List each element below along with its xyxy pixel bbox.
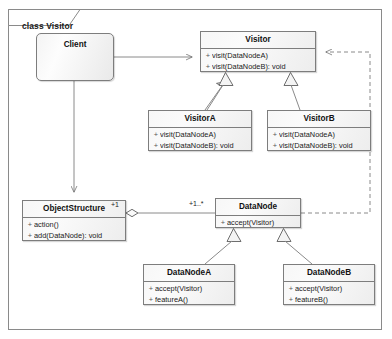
member-row: + visit(DataNodeB): void [204, 62, 313, 73]
class-box-visitora[interactable]: VisitorA + visit(DataNodeA) + visit(Data… [148, 110, 252, 151]
diagram-frame-tab-clip: class Visitor [8, 9, 80, 25]
class-box-visitor[interactable]: Visitor + visit(DataNodeA) + visit(DataN… [200, 31, 316, 72]
visibility-marker: + [152, 141, 160, 152]
member-row: + visit(DataNodeA) [271, 130, 368, 141]
member-row: + accept(Visitor) [287, 284, 372, 295]
visibility-marker: + [219, 218, 227, 229]
member-signature: accept(Visitor) [295, 284, 372, 295]
multiplicity-label-objectstructure: +1 [111, 201, 119, 209]
class-box-visitorb[interactable]: VisitorB + visit(DataNodeA) + visit(Data… [267, 110, 371, 151]
member-signature: accept(Visitor) [155, 284, 232, 295]
visibility-marker: + [204, 62, 212, 73]
class-name-visitora: VisitorA [149, 111, 251, 127]
member-row: + featureB() [287, 295, 372, 306]
visibility-marker: + [147, 284, 155, 295]
member-signature: visit(DataNodeA) [279, 130, 368, 141]
member-signature: visit(DataNodeB): void [279, 141, 368, 152]
member-signature: visit(DataNodeB): void [212, 62, 313, 73]
member-signature: visit(DataNodeA) [212, 51, 313, 62]
visibility-marker: + [152, 130, 160, 141]
class-name-datanode: DataNode [216, 199, 300, 215]
class-box-datanodea[interactable]: DataNodeA + accept(Visitor) + featureA() [143, 264, 235, 305]
member-row: + action() [26, 220, 123, 231]
class-members-visitor: + visit(DataNodeA) + visit(DataNodeB): v… [201, 49, 315, 75]
member-row: + accept(Visitor) [219, 218, 298, 229]
member-signature: accept(Visitor) [227, 218, 298, 229]
member-signature: add(DataNode): void [34, 231, 123, 242]
member-signature: featureB() [295, 295, 372, 306]
member-row: + accept(Visitor) [147, 284, 232, 295]
visibility-marker: + [287, 295, 295, 306]
class-members-visitorb: + visit(DataNodeA) + visit(DataNodeB): v… [268, 128, 370, 154]
class-members-objectstructure: + action() + add(DataNode): void [23, 218, 125, 244]
class-name-datanodea: DataNodeA [144, 265, 234, 281]
member-signature: visit(DataNodeB): void [160, 141, 249, 152]
class-members-datanodea: + accept(Visitor) + featureA() [144, 282, 234, 308]
visibility-marker: + [271, 141, 279, 152]
class-members-visitora: + visit(DataNodeA) + visit(DataNodeB): v… [149, 128, 251, 154]
frame-label: class Visitor [16, 18, 89, 33]
member-row: + visit(DataNodeB): void [152, 141, 249, 152]
uml-class-diagram: class Visitor Client Visitor + visit(Dat… [0, 0, 392, 339]
member-row: + featureA() [147, 295, 232, 306]
multiplicity-label-datanode: +1..* [189, 200, 204, 208]
visibility-marker: + [271, 130, 279, 141]
member-signature: action() [34, 220, 123, 231]
class-members-datanodeb: + accept(Visitor) + featureB() [284, 282, 374, 308]
member-row: + add(DataNode): void [26, 231, 123, 242]
class-name-visitor: Visitor [201, 32, 315, 48]
class-name-datanodeb: DataNodeB [284, 265, 374, 281]
visibility-marker: + [287, 284, 295, 295]
class-name-objectstructure: ObjectStructure [23, 201, 125, 217]
member-row: + visit(DataNodeA) [152, 130, 249, 141]
member-signature: featureA() [155, 295, 232, 306]
visibility-marker: + [147, 295, 155, 306]
class-name-client: Client [37, 34, 113, 53]
member-signature: visit(DataNodeA) [160, 130, 249, 141]
class-members-datanode: + accept(Visitor) [216, 216, 300, 232]
class-name-visitorb: VisitorB [268, 111, 370, 127]
member-row: + visit(DataNodeB): void [271, 141, 368, 152]
visibility-marker: + [26, 231, 34, 242]
class-box-datanode[interactable]: DataNode + accept(Visitor) [215, 198, 301, 228]
visibility-marker: + [204, 51, 212, 62]
class-box-datanodeb[interactable]: DataNodeB + accept(Visitor) + featureB() [283, 264, 375, 305]
class-box-client[interactable]: Client [36, 33, 114, 81]
member-row: + visit(DataNodeA) [204, 51, 313, 62]
visibility-marker: + [26, 220, 34, 231]
